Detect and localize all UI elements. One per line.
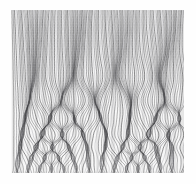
line-pattern-svg <box>11 10 184 173</box>
artwork-canvas <box>0 0 196 184</box>
pattern-plate <box>11 10 184 173</box>
